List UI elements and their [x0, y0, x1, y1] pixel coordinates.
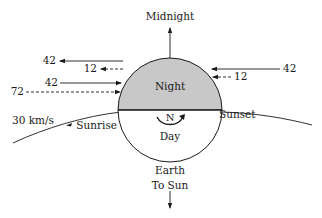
midnight-label: Midnight — [146, 10, 195, 22]
left-arrow-3-value: 42 — [45, 76, 58, 88]
right-arrow-2-value: 12 — [234, 70, 247, 82]
left-arrow-4-value: 72 — [11, 85, 24, 97]
orbit-direction-arrow — [66, 123, 72, 127]
night-label: Night — [155, 80, 186, 92]
sunset-label: Sunset — [219, 108, 256, 120]
pole-label: N — [166, 112, 175, 123]
earth-meteor-velocity-diagram: Midnight Night N Day Earth To Sun Sunris… — [0, 0, 322, 218]
sunrise-label: Sunrise — [76, 119, 117, 131]
right-arrow-1-value: 42 — [283, 62, 296, 74]
to-sun-label: To Sun — [152, 179, 189, 191]
day-label: Day — [160, 130, 181, 142]
earth-label: Earth — [155, 164, 185, 176]
left-arrow-1-value: 42 — [43, 54, 56, 66]
left-arrow-2-value: 12 — [84, 62, 97, 74]
orbital-speed-label: 30 km/s — [12, 114, 54, 126]
